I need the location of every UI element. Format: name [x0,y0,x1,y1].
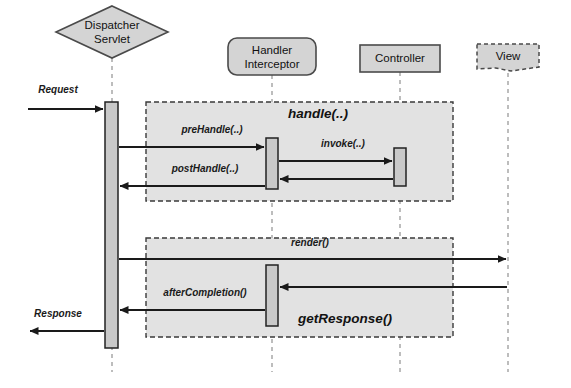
participant-label-line2: Interceptor [245,58,300,70]
message-group-message-request: Request [28,84,103,109]
message-invoke-label: invoke(..) [321,138,366,149]
sequence-diagram-svg: handle(..)getResponse() DispatcherServle… [0,0,571,388]
message-posthandle-label: postHandle(..) [171,163,239,174]
message-prehandle-label: preHandle(..) [180,124,243,135]
message-request-label: Request [38,84,78,95]
participant-nodes-layer: DispatcherServletHandlerInterceptorContr… [56,6,539,75]
participant-dispatcher-servlet[interactable]: DispatcherServlet [56,6,168,58]
fragment-label: getResponse() [297,311,392,326]
participant-label-line1: Handler [252,44,292,56]
participant-controller[interactable]: Controller [360,45,440,72]
fragments-layer: handle(..)getResponse() [146,102,453,337]
activation-interceptor-after [266,265,278,326]
fragment-label: handle(..) [288,106,349,121]
activation-interceptor-handle [266,138,278,189]
message-response-label: Response [34,308,82,319]
message-render-label: render() [291,237,329,248]
sequence-diagram-canvas: handle(..)getResponse() DispatcherServle… [0,0,571,388]
activation-dispatcher [105,102,118,348]
message-aftercompletion-label: afterCompletion() [163,287,247,298]
participant-label-line2: Servlet [94,33,131,45]
activation-controller-invoke [394,148,406,186]
participant-label-line1: View [496,50,521,62]
message-group-message-response: Response [30,308,104,331]
participant-handler-interceptor[interactable]: HandlerInterceptor [228,38,316,75]
participant-label-line1: Dispatcher [85,19,140,31]
participant-label-line1: Controller [375,52,425,64]
participant-shape-diamond [56,6,168,58]
participant-view[interactable]: View [477,44,539,71]
